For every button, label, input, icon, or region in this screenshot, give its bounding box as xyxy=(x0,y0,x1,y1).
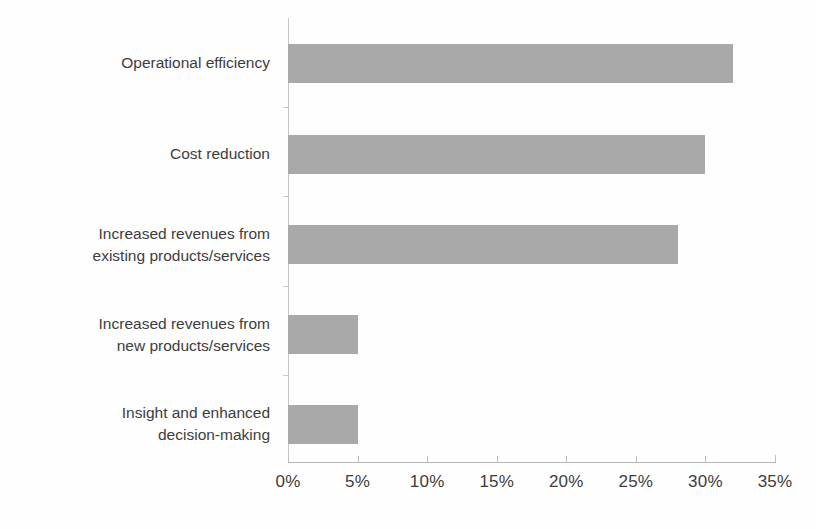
bar-increased-revenues-existing xyxy=(288,225,678,264)
plot-area xyxy=(288,18,776,462)
category-label-line: Increased revenues from xyxy=(0,313,270,335)
category-label-line: Operational efficiency xyxy=(0,52,270,74)
bar-increased-revenues-new xyxy=(288,315,358,354)
x-axis-tick xyxy=(497,456,498,463)
bar-cost-reduction xyxy=(288,135,705,174)
category-label-line: decision-making xyxy=(0,424,270,446)
x-axis-tick-label: 15% xyxy=(467,472,527,492)
category-label-cost-reduction: Cost reduction xyxy=(0,143,270,165)
x-axis-tick-label: 0% xyxy=(258,472,318,492)
bar-insight-decision-making xyxy=(288,405,358,444)
x-axis-line xyxy=(288,462,776,463)
category-label-line: Cost reduction xyxy=(0,143,270,165)
x-axis-tick-label: 30% xyxy=(675,472,735,492)
x-axis-tick xyxy=(566,456,567,463)
x-axis-tick xyxy=(427,456,428,463)
category-label-operational-efficiency: Operational efficiency xyxy=(0,52,270,74)
category-label-increased-revenues-new: Increased revenues from new products/ser… xyxy=(0,313,270,356)
category-label-line: Increased revenues from xyxy=(0,223,270,245)
x-axis-tick xyxy=(775,456,776,463)
x-axis-tick-label: 35% xyxy=(745,472,805,492)
x-axis-tick xyxy=(288,456,289,463)
x-axis-tick xyxy=(358,456,359,463)
x-axis-tick-label: 20% xyxy=(536,472,596,492)
x-axis-tick-label: 25% xyxy=(606,472,666,492)
category-label-line: new products/services xyxy=(0,335,270,357)
category-label-line: existing products/services xyxy=(0,245,270,267)
category-label-line: Insight and enhanced xyxy=(0,402,270,424)
category-label-increased-revenues-existing: Increased revenues from existing product… xyxy=(0,223,270,266)
x-axis-tick-label: 5% xyxy=(328,472,388,492)
bar-operational-efficiency xyxy=(288,44,733,83)
category-label-insight-decision-making: Insight and enhanced decision-making xyxy=(0,402,270,445)
category-axis-labels: Operational efficiency Cost reduction In… xyxy=(0,0,278,470)
x-axis-tick xyxy=(705,456,706,463)
x-axis-tick-label: 10% xyxy=(397,472,457,492)
x-axis-tick xyxy=(636,456,637,463)
bar-chart: Operational efficiency Cost reduction In… xyxy=(0,0,816,529)
